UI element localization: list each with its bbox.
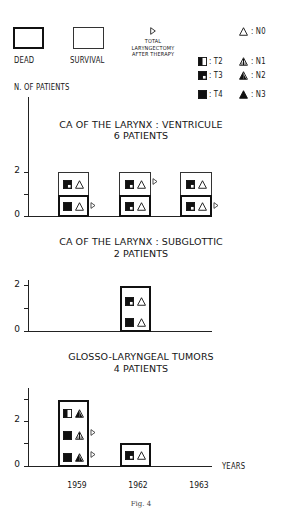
panel-2-tick-2	[24, 285, 28, 286]
n1-hatched-triangle-icon	[239, 57, 248, 66]
n0-icon	[198, 202, 207, 211]
t4-icon	[125, 318, 134, 327]
n0-icon	[137, 180, 146, 189]
n1-icon	[75, 431, 84, 440]
panel-1-1963-dead-box	[180, 195, 212, 217]
panel-1-subtitle: 6 PATIENTS	[0, 130, 282, 141]
t3-mostly-filled-square-icon	[198, 71, 207, 80]
n0-icon	[137, 297, 146, 306]
figure-caption: Fig. 4	[0, 500, 282, 508]
legend-dead-label: DEAD	[14, 55, 34, 65]
n3-filled-triangle-icon	[239, 90, 248, 99]
panel-2-1962-dead-box	[120, 286, 151, 332]
t3-icon	[63, 180, 72, 189]
panel-2-subtitle: 2 PATIENTS	[0, 248, 282, 259]
panel-3-subtitle: 4 PATIENTS	[0, 363, 282, 374]
panel-3-1962-dead-box	[120, 443, 151, 467]
laryngectomy-marker-icon	[213, 202, 219, 209]
laryngectomy-marker-icon	[152, 178, 158, 185]
laryngectomy-marker-icon	[90, 451, 96, 458]
n0-icon	[137, 451, 146, 460]
panel-1-1962-survival-box	[119, 172, 151, 196]
t2-half-filled-square-icon	[198, 57, 207, 66]
legend-survival-box	[73, 27, 104, 49]
legend-t2-label: : T2	[209, 56, 223, 66]
n0-icon	[137, 202, 146, 211]
panel-1-1962-dead-box	[119, 195, 151, 217]
panel-3-title: GLOSSO-LARYNGEAL TUMORS	[0, 351, 282, 362]
laryngectomy-marker-icon	[90, 429, 96, 436]
legend-n1-label: : N1	[251, 56, 266, 66]
panel-3-ticklabel-0: 0	[10, 459, 20, 469]
panel-1-tick-2	[24, 172, 28, 173]
panel-2-ticklabel-2: 2	[10, 279, 20, 289]
legend-t3-label: : T3	[209, 70, 223, 80]
panel-2-ticklabel-0: 0	[10, 324, 20, 334]
n2-icon	[75, 453, 84, 462]
panel-3-y-axis	[28, 388, 29, 467]
panel-1-1963-survival-box	[180, 172, 212, 196]
year-label-1959: 1959	[64, 480, 90, 490]
legend-dead-box	[13, 27, 44, 49]
t3-icon	[125, 202, 134, 211]
panel-1-tick-1	[24, 194, 28, 195]
panel-1-ticklabel-0: 0	[10, 209, 20, 219]
panel-1-ticklabel-2: 2	[10, 165, 20, 175]
n0-icon	[75, 202, 84, 211]
x-axis-label: YEARS	[222, 461, 245, 471]
t4-icon	[63, 453, 72, 462]
panel-1-title: CA OF THE LARYNX : VENTRICULE	[0, 119, 282, 130]
t4-filled-square-icon	[198, 90, 207, 99]
n0-icon	[137, 318, 146, 327]
panel-2-title: CA OF THE LARYNX : SUBGLOTTIC	[0, 236, 282, 247]
panel-1-1959-dead-box	[58, 195, 89, 217]
laryngectomy-marker-icon	[90, 202, 96, 209]
t3-icon	[125, 451, 134, 460]
legend-marker-line-3: AFTER THERAPY	[128, 51, 178, 58]
y-axis-label: N. OF PATIENTS	[14, 82, 70, 92]
t4-icon	[63, 431, 72, 440]
t4-icon	[63, 202, 72, 211]
panel-3-tick-1	[24, 443, 28, 444]
panel-3-tick-2	[24, 421, 28, 422]
t3-icon	[125, 297, 134, 306]
legend-n0-label: : N0	[251, 26, 266, 36]
t2-icon	[63, 409, 72, 418]
panel-3-1959-dead-box	[58, 400, 89, 467]
n0-icon	[75, 180, 84, 189]
legend-n3-label: : N3	[251, 89, 266, 99]
year-label-1963: 1963	[186, 480, 212, 490]
t3-icon	[125, 180, 134, 189]
panel-2-x-axis	[24, 331, 212, 332]
panel-1-y-axis	[28, 97, 29, 217]
n2-half-filled-triangle-icon	[239, 71, 248, 80]
panel-2-tick-1	[24, 308, 28, 309]
panel-2-y-axis	[28, 280, 29, 332]
legend-survival-label: SURVIVAL	[70, 55, 105, 65]
n2-icon	[75, 409, 84, 418]
n0-icon	[198, 180, 207, 189]
legend-n2-label: : N2	[251, 70, 266, 80]
year-label-1962: 1962	[125, 480, 151, 490]
laryngectomy-marker-icon	[150, 27, 156, 35]
legend-t4-label: : T4	[209, 89, 223, 99]
t3-icon	[186, 202, 195, 211]
panel-3-x-axis	[24, 466, 212, 467]
t3-icon	[186, 180, 195, 189]
n0-open-triangle-icon	[239, 27, 248, 36]
panel-3-tick-3	[24, 399, 28, 400]
panel-1-1959-survival-box	[58, 172, 89, 196]
panel-3-ticklabel-2: 2	[10, 414, 20, 424]
